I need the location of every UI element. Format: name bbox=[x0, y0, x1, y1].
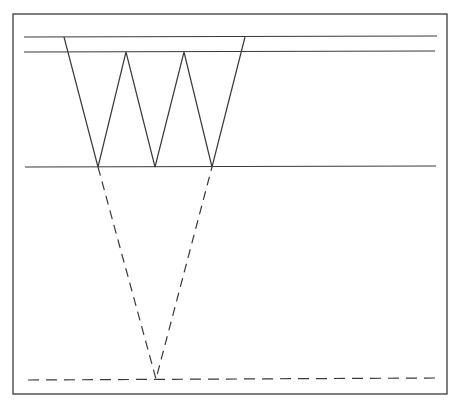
top-line-2 bbox=[24, 51, 435, 52]
zigzag-reflection-path bbox=[64, 37, 245, 167]
top-line-1 bbox=[24, 36, 437, 37]
dashed-virtual-path bbox=[98, 167, 212, 379]
middle-line bbox=[25, 166, 436, 167]
diagram-frame bbox=[13, 14, 447, 394]
diagram-canvas bbox=[0, 0, 458, 406]
horizontal-lines bbox=[24, 36, 437, 380]
bottom-dashed-line bbox=[28, 378, 437, 380]
